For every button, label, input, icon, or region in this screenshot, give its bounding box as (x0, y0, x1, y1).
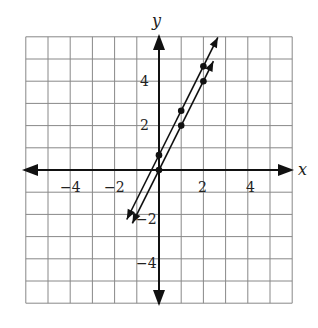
y-tick-label: 4 (140, 73, 149, 89)
x-tick-label: 2 (198, 179, 207, 195)
y-tick-label: −2 (136, 211, 157, 227)
x-tick-label: 4 (246, 179, 255, 195)
x-tick-label: −2 (104, 179, 125, 195)
x-axis-label: x (298, 160, 307, 179)
x-tick-label: −4 (60, 179, 81, 195)
y-tick-label: 2 (140, 117, 149, 133)
y-tick-label: −4 (136, 255, 157, 271)
coordinate-plane: x y −4 −2 2 4 4 2 −2 −4 (0, 0, 318, 328)
y-axis-label: y (151, 11, 162, 30)
